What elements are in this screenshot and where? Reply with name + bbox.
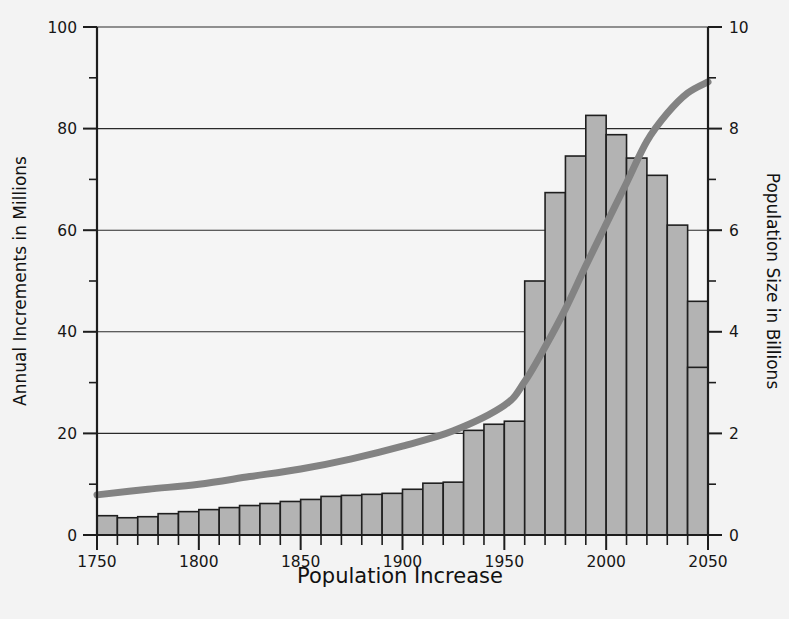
bar-1750 [97, 516, 117, 535]
y-axis-left-title: Annual Increments in Millions [10, 156, 30, 406]
x-tick-label-2000: 2000 [586, 553, 625, 571]
bar-2010 [627, 158, 647, 535]
bar-1880 [362, 494, 382, 535]
bar-1770 [138, 517, 158, 535]
bar-1810 [219, 508, 239, 535]
bar-1800 [199, 510, 219, 535]
bar-1790 [178, 512, 198, 535]
bar-1870 [341, 495, 361, 535]
y-tick-label-left-20: 20 [57, 425, 77, 443]
y-tick-label-right-0: 0 [729, 527, 739, 545]
y-tick-label-left-40: 40 [57, 323, 77, 341]
bar-1960 [525, 281, 545, 535]
y-tick-label-right-2: 2 [729, 425, 739, 443]
y-tick-label-left-0: 0 [67, 527, 77, 545]
bar-1780 [158, 514, 178, 535]
bar-1980 [565, 156, 585, 535]
y-tick-label-left-80: 80 [57, 120, 77, 138]
bar-1940 [484, 424, 504, 535]
bar-1860 [321, 496, 341, 535]
bar-2030 [667, 225, 687, 535]
x-axis-title: Population Increase [297, 564, 503, 588]
bar-1890 [382, 493, 402, 535]
bar-2020 [647, 175, 667, 535]
y-tick-label-left-100: 100 [47, 19, 77, 37]
chart-svg: 0204060801000246810175018001850190019502… [0, 0, 789, 619]
y-tick-label-right-10: 10 [729, 19, 749, 37]
bar-1910 [423, 483, 443, 535]
y-tick-label-right-8: 8 [729, 120, 739, 138]
population-increase-chart: 0204060801000246810175018001850190019502… [0, 0, 789, 619]
bar-1950 [504, 421, 524, 535]
bar-2040 [688, 367, 708, 535]
y-tick-label-left-60: 60 [57, 222, 77, 240]
x-tick-label-2050: 2050 [688, 553, 727, 571]
y-axis-right-title: Population Size in Billions [763, 173, 783, 390]
y-tick-label-right-4: 4 [729, 323, 739, 341]
bar-1920 [443, 482, 463, 535]
y-tick-label-right-6: 6 [729, 222, 739, 240]
bar-1820 [240, 506, 260, 535]
bar-1990 [586, 115, 606, 535]
bar-1840 [280, 501, 300, 535]
bar-1930 [464, 430, 484, 535]
bar-1900 [403, 489, 423, 535]
bar-1830 [260, 504, 280, 535]
bar-1970 [545, 193, 565, 535]
bar-1760 [117, 518, 137, 535]
x-tick-label-1750: 1750 [77, 553, 116, 571]
bar-1850 [301, 499, 321, 535]
x-tick-label-1800: 1800 [179, 553, 218, 571]
